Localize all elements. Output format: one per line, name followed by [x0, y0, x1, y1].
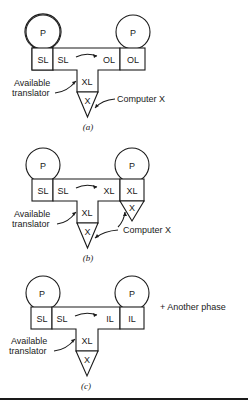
- t-diagram-figure: P SL SL OL XL X P OL Available translato…: [0, 0, 248, 402]
- left-language-label: SL: [37, 55, 48, 65]
- stem-language-label: XL: [81, 77, 92, 87]
- machine-label: X: [84, 355, 90, 365]
- available-translator-line2: translator: [12, 88, 50, 98]
- machine-label: X: [84, 227, 90, 237]
- available-translator-line1: Available: [11, 336, 47, 346]
- left-language-label: SL: [37, 186, 48, 196]
- processor-label-right: P: [129, 161, 135, 171]
- figure-c: P SL SL IL XL X P IL + Another phase Ava…: [9, 276, 226, 391]
- figure-b: P SL SL XL XL X P XL X Available transla…: [12, 148, 171, 263]
- translator-input-label: SL: [57, 55, 68, 65]
- translator-output-label: XL: [103, 186, 114, 196]
- stem-language-label: XL: [81, 336, 92, 346]
- translator-input-label: SL: [57, 186, 68, 196]
- stem-language-label: XL: [81, 208, 92, 218]
- processor-label-right: P: [130, 28, 136, 38]
- machine-label: X: [84, 96, 90, 106]
- figure-a: P SL SL OL XL X P OL Available translato…: [12, 14, 165, 132]
- right-machine-label: X: [129, 203, 135, 213]
- pointer-arrow-icon: [95, 99, 115, 108]
- bottom-rule: [0, 398, 248, 400]
- caption-a: (a): [83, 122, 94, 132]
- right-language-label: XL: [126, 186, 137, 196]
- translator-output-label: OL: [103, 55, 115, 65]
- translator-input-label: SL: [56, 314, 67, 324]
- left-language-label: SL: [36, 314, 47, 324]
- available-translator-line1: Available: [14, 209, 50, 219]
- computer-x-label: Computer X: [117, 94, 165, 104]
- translator-output-label: IL: [106, 314, 114, 324]
- caption-b: (b): [83, 253, 94, 263]
- caption-c: (c): [81, 381, 91, 391]
- computer-x-label: Computer X: [123, 225, 171, 235]
- right-language-label: OL: [127, 55, 139, 65]
- right-language-label: IL: [128, 314, 136, 324]
- processor-label-left: P: [40, 28, 46, 38]
- processor-label-left: P: [39, 289, 45, 299]
- available-translator-line1: Available: [14, 78, 50, 88]
- available-translator-line2: translator: [9, 346, 47, 356]
- processor-label-right: P: [129, 289, 135, 299]
- available-translator-line2: translator: [12, 219, 50, 229]
- processor-label-left: P: [40, 161, 46, 171]
- another-phase-label: + Another phase: [160, 302, 226, 312]
